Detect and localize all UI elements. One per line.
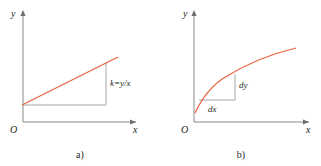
x-axis-label-b: x xyxy=(305,124,311,135)
panel-b: y x O dy dx b) xyxy=(161,0,321,166)
linear-curve-a xyxy=(22,57,118,105)
y-axis-label-b: y xyxy=(182,8,188,19)
y-axis-label-a: y xyxy=(10,8,16,19)
dy-annotation-b: dy xyxy=(239,80,248,90)
slope-annotation-a: k=y/x xyxy=(110,78,131,88)
figure-container: y x O k=y/x a) y x O dy dx b) xyxy=(0,0,321,166)
y-axis-arrow-a xyxy=(20,10,25,16)
origin-label-a: O xyxy=(10,124,17,135)
panel-a: y x O k=y/x a) xyxy=(0,0,160,166)
origin-label-b: O xyxy=(181,124,188,135)
panel-caption-b: b) xyxy=(161,149,321,160)
panel-caption-a: a) xyxy=(0,149,160,160)
x-axis-label-a: x xyxy=(132,124,138,135)
y-axis-arrow-b xyxy=(191,10,196,16)
panel-b-plot: y x O dy dx xyxy=(161,0,321,166)
panel-a-plot: y x O k=y/x xyxy=(0,0,160,166)
dx-annotation-b: dx xyxy=(208,104,217,114)
